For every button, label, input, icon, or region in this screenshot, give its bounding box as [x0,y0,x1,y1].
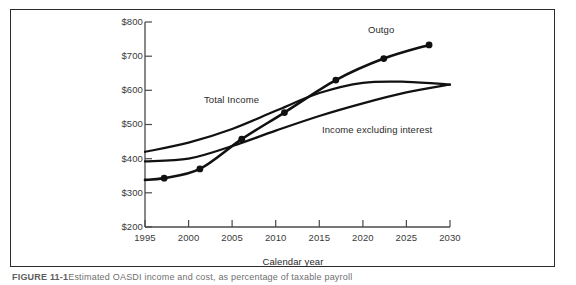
x-axis-ticks [145,220,450,227]
y-tick-label-400: $400 [103,153,143,164]
data-point-marker [332,77,339,84]
figure-caption-label: FIGURE 11-1 [12,272,68,282]
series-group [145,41,450,181]
x-axis-title: Calendar year [213,256,373,267]
y-tick-label-600: $600 [103,84,143,95]
y-tick-label-800: $800 [103,16,143,27]
data-point-marker [197,166,204,173]
data-point-marker [380,55,387,62]
x-tick-label-2005: 2005 [212,232,252,243]
x-tick-label-1995: 1995 [125,232,165,243]
chart-plot-area: $800 $700 $600 $500 $400 $300 $200 1995 … [0,0,576,285]
x-tick-label-2020: 2020 [343,232,383,243]
x-tick-label-2015: 2015 [299,232,339,243]
series-annotation-income-excluding-interest: Income excluding interest [322,124,432,135]
x-tick-label-2030: 2030 [430,232,470,243]
y-tick-label-200: $200 [103,221,143,232]
y-axis-ticks [145,22,152,227]
figure-caption: FIGURE 11-1Estimated OASDI income and co… [12,272,572,285]
series-line-income-excluding-interest [145,85,450,162]
series-annotation-outgo: Outgo [368,24,394,35]
y-tick-label-300: $300 [103,187,143,198]
figure-caption-text: Estimated OASDI income and cost, as perc… [68,272,352,282]
x-tick-label-2000: 2000 [169,232,209,243]
y-tick-label-500: $500 [103,118,143,129]
x-tick-label-2025: 2025 [386,232,426,243]
series-annotation-total-income: Total Income [204,94,259,105]
data-point-marker [281,109,288,116]
data-point-marker [161,175,168,182]
x-tick-label-2010: 2010 [256,232,296,243]
figure-root: $800 $700 $600 $500 $400 $300 $200 1995 … [0,0,576,285]
y-tick-label-700: $700 [103,50,143,61]
data-point-marker [426,41,433,48]
